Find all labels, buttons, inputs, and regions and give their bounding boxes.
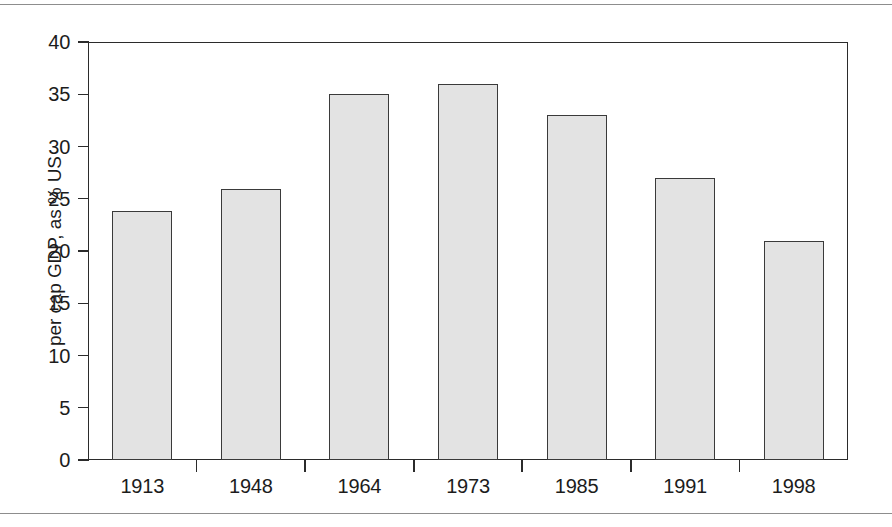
x-tick-mark	[521, 460, 523, 472]
bar-chart-figure: per cap GDP, as % US 0510152025303540 19…	[0, 0, 892, 527]
x-tick-label: 1948	[191, 476, 311, 496]
y-tick-label: 5	[32, 398, 70, 418]
y-tick-mark	[78, 407, 89, 408]
y-tick-mark	[78, 94, 89, 95]
y-tick-mark	[78, 250, 89, 251]
x-tick-mark	[196, 460, 198, 472]
y-tick-label: 35	[32, 84, 70, 104]
x-tick-mark	[630, 460, 632, 472]
bar	[655, 178, 715, 460]
y-tick-mark	[78, 198, 89, 199]
y-tick-label: 0	[32, 450, 70, 470]
y-tick-label: 20	[32, 241, 70, 261]
x-tick-mark	[739, 460, 741, 472]
bar	[764, 241, 824, 460]
y-tick-label: 15	[32, 293, 70, 313]
y-tick-label: 30	[32, 137, 70, 157]
figure-page: per cap GDP, as % US 0510152025303540 19…	[0, 0, 892, 527]
x-tick-label: 1964	[299, 476, 419, 496]
bar	[112, 211, 172, 460]
y-tick-label: 40	[32, 32, 70, 52]
bar	[547, 115, 607, 460]
y-tick-mark	[78, 459, 89, 460]
bar	[329, 94, 389, 460]
y-tick-label: 10	[32, 346, 70, 366]
y-tick-mark	[78, 41, 89, 42]
y-tick-mark	[78, 355, 89, 356]
x-tick-label: 1991	[625, 476, 745, 496]
x-tick-mark	[413, 460, 415, 472]
x-tick-mark	[304, 460, 306, 472]
y-tick-mark	[78, 146, 89, 147]
x-tick-label: 1913	[82, 476, 202, 496]
x-tick-label: 1998	[734, 476, 854, 496]
x-tick-label: 1973	[408, 476, 528, 496]
y-tick-mark	[78, 303, 89, 304]
x-tick-label: 1985	[517, 476, 637, 496]
y-tick-label: 25	[32, 189, 70, 209]
bar	[438, 84, 498, 460]
bar	[221, 189, 281, 460]
